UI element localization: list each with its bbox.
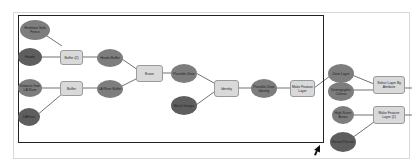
node-label: LARiver [23,115,35,119]
node-label: Hedmore Solo Fence [20,26,50,34]
node-label: LA River Buffer [99,87,122,91]
node-label: Buffer (2) [64,56,78,60]
node-label: Possible Zone [173,72,195,76]
node-label: Hoods [25,55,35,59]
node-label: Zone Layer [332,72,349,76]
data-node-hoods-buffer[interactable]: Hoods Buffer [97,49,123,67]
node-label: Demographic Criteria [328,88,354,96]
tool-node-make-feature-layer-2[interactable]: Make Feature Layer (2) [373,106,405,124]
node-label: Identity [221,87,232,91]
tool-node-erase[interactable]: Erase [136,65,163,82]
tool-node-buffer[interactable]: Buffer [60,81,83,96]
node-label: Hoods Buffer [100,56,120,60]
node-label: Make Feature Layer [291,85,314,93]
node-label: Block Groups [174,104,194,108]
node-label: Make Feature Layer (2) [374,111,404,119]
mouse-pointer-icon [312,144,322,156]
node-label: Distance from LA River [18,84,42,92]
data-node-vacant-parcels[interactable]: Vacant Parcels [330,132,356,152]
tool-node-select-layer-by-attribute[interactable]: Select Layer By Attribute [373,76,405,94]
data-node-hedmore[interactable]: Hedmore Solo Fence [20,20,50,40]
tool-node-identity[interactable]: Identity [214,80,239,97]
node-label: Vacant Parcels [332,140,355,144]
data-node-possible-zone-identity[interactable]: Possible Zone Identity [251,79,277,98]
data-node-distance-la-river[interactable]: Distance from LA River [18,79,42,97]
tool-node-buffer-2[interactable]: Buffer (2) [60,50,83,65]
node-label: High Score Areas [332,111,354,119]
node-label: Select Layer By Attribute [374,81,404,89]
node-label: Buffer [67,87,76,91]
data-node-zone-layer[interactable]: Zone Layer [328,64,354,83]
data-node-high-score-areas[interactable]: High Score Areas [332,106,354,124]
node-label: Possible Zone Identity [251,85,277,93]
data-node-block-groups[interactable]: Block Groups [171,96,197,115]
data-node-lariver[interactable]: LARiver [18,108,40,126]
data-node-demographic-criteria[interactable]: Demographic Criteria [328,82,354,101]
selection-rectangle [18,15,324,143]
data-node-hoods[interactable]: Hoods [18,48,42,66]
node-label: Erase [145,72,154,76]
data-node-possible-zone[interactable]: Possible Zone [171,64,197,83]
tool-node-make-feature-layer[interactable]: Make Feature Layer [290,80,315,97]
data-node-la-river-buffer[interactable]: LA River Buffer [97,80,123,98]
